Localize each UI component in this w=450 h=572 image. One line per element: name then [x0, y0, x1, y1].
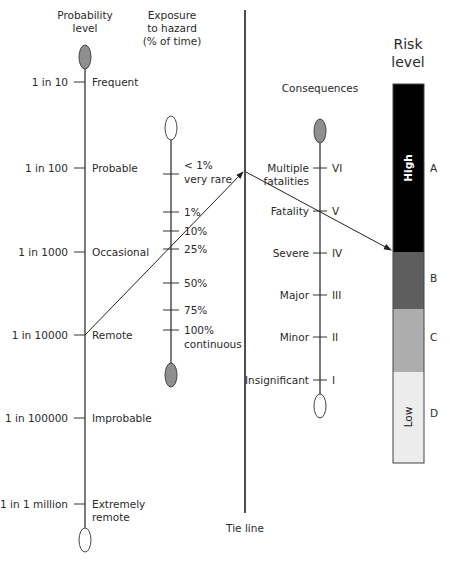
risk-letter-c: C [430, 331, 437, 343]
probability-value: 1 in 10000 [12, 329, 68, 341]
consequence-grade: VI [332, 162, 342, 174]
exposure-tick: < 1% very rare [163, 159, 232, 185]
exposure-label: 50% [184, 277, 207, 289]
probability-value: 1 in 10 [32, 76, 68, 88]
risk-letter-a: A [430, 162, 438, 174]
risk-title-line2: level [391, 54, 424, 70]
consequences-bottom-cap-icon [314, 394, 326, 418]
exposure-top-cap-icon [165, 116, 177, 140]
probability-label: Improbable [92, 412, 152, 424]
consequences-tick: Fatality V [271, 205, 340, 217]
probability-title-line1: Probability [57, 9, 113, 21]
exposure-bottom-cap-icon [165, 363, 177, 387]
probability-value: 1 in 100 [25, 162, 68, 174]
probability-label: Extremely [92, 498, 145, 510]
risk-band-b [393, 252, 424, 309]
exposure-tick: 25% [163, 243, 207, 255]
exposure-tick: 1% [163, 206, 201, 218]
probability-value: 1 in 1000 [18, 246, 68, 258]
tie-line-label: Tie line [225, 522, 264, 534]
exposure-label: 10% [184, 225, 207, 237]
consequence-grade: I [332, 374, 335, 386]
risk-letter-b: B [430, 272, 437, 284]
probability-tick: 1 in 1000 Occasional [18, 246, 149, 258]
risk-level-column: Risk level High Low A B C D [391, 36, 438, 463]
exposure-column: Exposure to hazard (% of time) < 1% very… [143, 9, 242, 387]
probability-tick: 1 in 1 million Extremely remote [0, 498, 145, 523]
risk-band-a-label: High [402, 154, 414, 181]
probability-label: Frequent [92, 76, 138, 88]
exposure-title-line3: (% of time) [143, 35, 202, 47]
probability-bottom-cap-icon [79, 528, 91, 552]
consequences-tick: Major III [280, 289, 341, 301]
tie-line-column: Tie line [225, 10, 264, 534]
consequence-grade: III [332, 289, 341, 301]
probability-label: Remote [92, 329, 133, 341]
exposure-label: 75% [184, 304, 207, 316]
risk-nomogram: Probability level 1 in 10 Frequent 1 in … [0, 0, 450, 572]
probability-value: 1 in 100000 [5, 412, 68, 424]
arrow-tie-line-to-risk [246, 172, 391, 250]
consequences-column: Consequences Multiple fatalities VI Fata… [245, 82, 358, 418]
exposure-label: 100% [184, 324, 214, 336]
consequence-label: Severe [273, 247, 309, 259]
consequence-label: Multiple [267, 162, 309, 174]
consequence-grade: V [332, 205, 340, 217]
probability-label: Occasional [92, 246, 149, 258]
risk-band-c [393, 309, 424, 372]
probability-tick: 1 in 10000 Remote [12, 329, 133, 341]
probability-tick: 1 in 100000 Improbable [5, 412, 152, 424]
consequences-top-cap-icon [314, 119, 326, 143]
risk-letter-d: D [430, 407, 438, 419]
consequences-title: Consequences [282, 82, 358, 94]
risk-title-line1: Risk [393, 36, 423, 52]
exposure-tick: 50% [163, 277, 207, 289]
probability-column: Probability level 1 in 10 Frequent 1 in … [0, 9, 152, 552]
consequences-tick: Insignificant I [245, 374, 335, 386]
risk-band-d-label: Low [402, 406, 414, 427]
probability-tick: 1 in 100 Probable [25, 162, 138, 174]
consequence-label: Insignificant [245, 374, 309, 386]
consequence-grade: II [332, 331, 338, 343]
exposure-label: 1% [184, 206, 201, 218]
consequence-label: Major [280, 289, 310, 301]
exposure-label: < 1% [184, 159, 213, 171]
consequences-tick: Severe IV [273, 247, 343, 259]
probability-label: Probable [92, 162, 138, 174]
consequences-tick: Minor II [280, 331, 339, 343]
exposure-label-line2: very rare [184, 173, 232, 185]
exposure-title-line1: Exposure [148, 9, 197, 21]
exposure-tick: 100% continuous [163, 324, 242, 350]
consequence-label: Fatality [271, 205, 309, 217]
probability-title-line2: level [73, 22, 98, 34]
consequence-label: Minor [280, 331, 310, 343]
exposure-label: 25% [184, 243, 207, 255]
probability-top-cap-icon [79, 45, 91, 69]
probability-value: 1 in 1 million [0, 498, 68, 510]
probability-label-line2: remote [92, 511, 130, 523]
exposure-tick: 75% [163, 304, 207, 316]
exposure-title-line2: to hazard [147, 22, 197, 34]
exposure-label-line2: continuous [184, 338, 242, 350]
consequence-grade: IV [332, 247, 343, 259]
consequences-tick: Multiple fatalities VI [264, 162, 343, 187]
